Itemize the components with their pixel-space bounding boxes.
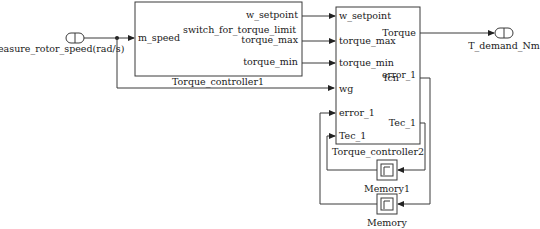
block1-name: Torque_controller1: [172, 76, 264, 88]
port-in-torque-min: torque_min: [339, 57, 394, 69]
memory-icon: [381, 198, 393, 210]
block-memory1[interactable]: Memory1: [364, 160, 410, 194]
memory-label: Memory: [367, 217, 408, 228]
block-torque-controller1[interactable]: m_speed switch_for_torque_limit w_setpoi…: [135, 2, 302, 88]
port-out-error-1: error_1: [382, 70, 416, 81]
port-out-torque: Torque: [382, 27, 416, 38]
port-out-tec-1: Tec_1: [389, 117, 416, 129]
port-out-w-setpoint: w_setpoint: [246, 9, 298, 21]
block-memory[interactable]: Memory: [367, 194, 408, 228]
port-in-w-setpoint: w_setpoint: [339, 10, 391, 22]
wires-block1-block2: [302, 16, 335, 63]
memory1-label: Memory1: [364, 183, 410, 194]
block-torque-controller2[interactable]: w_setpoint torque_max torque_min wg erro…: [332, 7, 424, 158]
port-in-wg: wg: [339, 83, 353, 94]
block2-name: Torque_controller2: [332, 146, 424, 158]
inport-measure-rotor-speed[interactable]: easure_rotor_speed(rad/s): [0, 33, 124, 55]
outport-t-demand[interactable]: T_demand_Nm: [468, 28, 540, 52]
port-out-torque-min: torque_min: [243, 56, 298, 68]
inport-label: easure_rotor_speed(rad/s): [0, 43, 124, 55]
port-in-tec-1: Tec_1: [339, 130, 366, 142]
simulink-diagram: easure_rotor_speed(rad/s) m_speed switch…: [0, 0, 540, 229]
port-in-error-1: error_1: [339, 107, 375, 119]
port-in-m-speed: m_speed: [138, 32, 180, 44]
port-out-torque-max: torque_max: [241, 34, 298, 46]
memory-icon: [381, 164, 393, 176]
outport-label: T_demand_Nm: [468, 40, 540, 52]
